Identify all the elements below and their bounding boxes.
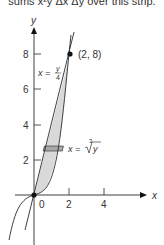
x-axis-arrow-icon (140, 192, 147, 198)
y-tick-label-2: 2 (23, 155, 29, 166)
x-tick-label-2: 2 (66, 199, 72, 210)
y-tick-label-4: 4 (23, 120, 29, 131)
line-label-numerator: y (55, 65, 60, 73)
line-label-denominator: 4 (56, 74, 60, 81)
y-axis-arrow-icon (31, 27, 37, 34)
y-tick-label-6: 6 (23, 84, 29, 95)
point-label: (2, 8) (78, 49, 101, 60)
curve-label-radicand: y (92, 144, 98, 154)
y-axis-label: y (30, 15, 37, 26)
curve-label-lhs: x = (67, 144, 80, 154)
origin-point (31, 192, 36, 197)
x-tick-label-4: 4 (101, 199, 107, 210)
x-axis-label: x (151, 190, 158, 201)
line-label-lhs: x = (37, 68, 50, 78)
x-tick-label-0: 0 (39, 199, 45, 210)
integration-strip (43, 146, 63, 151)
point-2-8 (67, 51, 72, 56)
region-diagram: y x 8 6 4 2 0 2 4 (2, 8) x = y 4 x = 3 y (0, 0, 164, 245)
y-tick-label-8: 8 (23, 49, 29, 60)
